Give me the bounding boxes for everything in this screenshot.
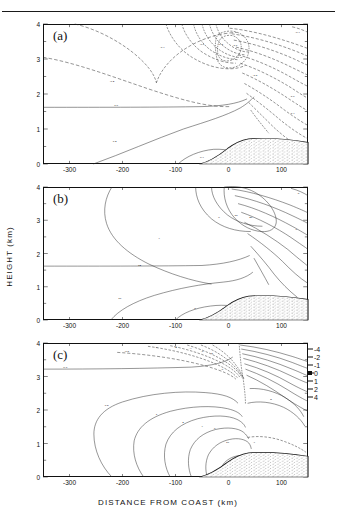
contour-a-r5: [238, 55, 308, 87]
panel-a-ytick-4: 4: [36, 21, 40, 28]
panel-a-ytick-1: 1: [36, 126, 40, 133]
contour-a-r4: [236, 47, 308, 75]
panel-a-terrain: [199, 138, 308, 164]
contour-b-r8: [254, 258, 269, 285]
contour-c-8b: [248, 402, 305, 426]
panel-b-contours: 4 12 10 8 6 6 18 20 8 6: [43, 187, 308, 320]
contour-b-8tr: [291, 188, 308, 195]
panel-a-xtick-1: -200: [116, 166, 129, 173]
contour-a-r3: [234, 40, 308, 65]
legend-tick-marks: [308, 343, 316, 405]
panel-c-xtick-1: -200: [116, 479, 129, 486]
contour-b-20: [224, 187, 276, 232]
contour-b-r2: [235, 196, 308, 224]
panel-b-xtick-2: -100: [169, 322, 182, 329]
panel-a-xtick-2: -100: [169, 166, 182, 173]
panel-c-xtick-2: -100: [169, 479, 182, 486]
panel-a-xtick-0: -300: [63, 166, 76, 173]
panel-c-ytick-2: 2: [36, 407, 40, 414]
contour-a--1.6c: [215, 31, 249, 68]
panel-c-ytick-4: 4: [36, 340, 40, 347]
label-a-8: -0.4: [295, 32, 301, 34]
contour-a--1.4i: [209, 24, 245, 55]
contour-b-12: [43, 255, 250, 266]
contour-c-r6: [245, 369, 308, 401]
panel-b-terrain: [199, 296, 308, 320]
label-c-9: 0.5: [105, 404, 110, 406]
contour-b-r4: [241, 212, 308, 249]
contour-c-r7: [247, 375, 308, 411]
panel-b-xtick-0: -300: [63, 322, 76, 329]
label-c-10: 1: [156, 414, 158, 416]
panel-c-contour-labels: -0.5 -1 -2 -4 -6 -8 -6 -4 0.0 0.5 1 2 4 …: [63, 346, 272, 443]
panel-a-ytick-0: 0: [36, 161, 40, 168]
panel-c-legend: -4 -2 -1 0 1 2 4: [308, 343, 336, 403]
panel-b-ytick-3: 3: [36, 217, 40, 224]
figure-three-panel-contour-plot: (a) 0 1 2 3 4: [0, 0, 337, 527]
label-b-6: 18: [234, 215, 238, 217]
contour-b-r5: [244, 222, 308, 266]
panel-a-ytick-3: 3: [36, 56, 40, 63]
label-a-11: 0.4: [200, 156, 205, 158]
contour-a-r8: [244, 84, 308, 126]
panel-c-ytick-1: 1: [36, 440, 40, 447]
panel-c-xtick-3: 0: [227, 479, 231, 486]
panel-b-ytick-0: 0: [36, 317, 40, 324]
panel-b-ytick-2: 2: [36, 250, 40, 257]
label-c-2: -2: [174, 347, 177, 349]
label-c-5: -8: [210, 352, 213, 354]
label-c-0: -0.5: [124, 350, 130, 352]
label-a-5: -1.8: [253, 75, 259, 77]
label-c-12: 4: [201, 426, 203, 428]
panel-b: (b) 0 1 2 3 4: [43, 187, 308, 320]
contour-c-r4: [243, 358, 308, 383]
panel-c: (c) 0 1 2 3 4: [43, 343, 308, 477]
panel-b-xtick-1: -200: [116, 322, 129, 329]
contour-b-r1: [232, 189, 308, 213]
panel-b-xtick-3: 0: [227, 322, 231, 329]
label-a-6: -1.6: [290, 95, 296, 97]
contour-c-8: [250, 388, 304, 416]
contour-c--1: [148, 346, 238, 378]
label-a-1: -0.4: [160, 47, 166, 49]
label-a-2: -0.6: [200, 43, 206, 45]
contour-a--1.6i: [216, 24, 249, 52]
label-b-2: 10: [118, 298, 122, 300]
panel-a-xtick-4: 100: [276, 166, 287, 173]
panel-c-contours: -0.5 -1 -2 -4 -6 -8 -6 -4 0.0 0.5 1 2 4 …: [43, 343, 308, 477]
contour-a-r9: [247, 93, 308, 139]
contour-a--0.8: [182, 24, 236, 63]
label-c-8: 0.0: [63, 366, 68, 368]
contour-c-0.5: [94, 392, 238, 477]
contour-a-0.4-tr: [292, 27, 308, 33]
contour-a--0.6: [166, 24, 246, 69]
label-b-0: 4: [158, 237, 160, 239]
label-c-3: -4: [189, 348, 192, 350]
label-c-14: 10: [226, 442, 230, 444]
legend-zero-marker: [308, 371, 312, 375]
panel-c-xtick-4: 100: [276, 479, 287, 486]
contour-a--0.4a: [75, 24, 157, 83]
panel-b-xtick-4: 100: [276, 322, 287, 329]
label-c-4: -6: [201, 350, 204, 352]
label-c-7: -4: [253, 442, 256, 444]
panel-a: (a) 0 1 2 3 4: [43, 24, 308, 164]
panel-a-xtick-3: 0: [227, 166, 231, 173]
contour-b-4: [105, 187, 212, 284]
contour-c-r5: [244, 364, 308, 392]
label-b-5: 6: [218, 217, 220, 219]
label-a-3: -0.8: [218, 43, 224, 45]
contour-c-r2: [241, 349, 308, 368]
contour-c--0.5: [117, 352, 236, 379]
panel-a-ytick-2: 2: [36, 91, 40, 98]
contour-b-r3: [238, 204, 308, 236]
label-c-15: 8: [270, 398, 272, 400]
label-a-7: -1.4: [290, 113, 296, 115]
label-b-8: 8: [298, 192, 300, 194]
contour-a--0.4b: [156, 32, 237, 82]
contour-a--0.2: [43, 57, 230, 106]
label-c-11: 2: [182, 421, 184, 423]
contour-c--4r: [248, 437, 306, 453]
panel-c-ytick-3: 3: [36, 373, 40, 380]
label-a-9: 0.0: [114, 105, 119, 107]
